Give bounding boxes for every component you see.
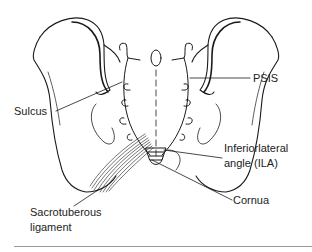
- sulcus-label: Sulcus: [14, 105, 47, 118]
- psis-label: PSIS: [253, 72, 278, 85]
- ila-label-line2: angle (ILA): [224, 157, 278, 170]
- ila-label-line1: Inferiorlateral: [224, 142, 288, 155]
- leader-lines: [56, 78, 250, 206]
- cornua-label: Cornua: [233, 194, 269, 207]
- sacrum: [119, 43, 192, 160]
- bottom-rule-divider: [14, 246, 312, 247]
- sacrotuberous-label-line1: Sacrotuberous: [30, 206, 102, 219]
- sacrotuberous-label-line2: ligament: [30, 221, 72, 234]
- pelvis-diagram: PSIS Sulcus Inferiorlateral angle (ILA) …: [0, 0, 312, 252]
- sacrotuberous-ligament-fibers: [90, 134, 153, 192]
